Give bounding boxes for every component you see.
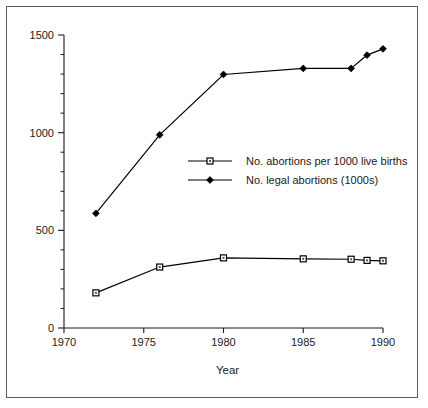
data-point	[364, 257, 370, 263]
data-point	[380, 45, 387, 52]
series-2	[93, 45, 387, 216]
x-tick-label: 1990	[371, 336, 395, 348]
series-1	[93, 255, 386, 296]
marker-square-inner	[350, 258, 352, 260]
data-point	[93, 290, 99, 296]
series-line	[96, 49, 383, 213]
legend: No. abortions per 1000 live birthsNo. le…	[188, 155, 408, 186]
data-point	[300, 256, 306, 262]
chart-figure: 05001000150019701975198019851990YearNo. …	[0, 0, 428, 408]
data-point	[380, 258, 386, 264]
legend-item: No. abortions per 1000 live births	[188, 155, 408, 167]
marker-square-inner	[159, 266, 161, 268]
marker-square-inner	[95, 292, 97, 294]
marker-square-inner	[223, 257, 225, 259]
x-axis-title: Year	[216, 364, 239, 376]
x-tick-label: 1980	[211, 336, 235, 348]
marker-square-inner	[302, 258, 304, 260]
x-tick-label: 1985	[291, 336, 315, 348]
legend-swatch-marker	[207, 177, 214, 184]
y-tick-label: 1000	[30, 127, 54, 139]
data-point	[300, 65, 307, 72]
legend-item-label: No. abortions per 1000 live births	[246, 155, 408, 167]
legend-item: No. legal abortions (1000s)	[188, 174, 378, 186]
marker-square-inner	[382, 260, 384, 262]
data-point	[348, 256, 354, 262]
x-tick-label: 1970	[52, 336, 76, 348]
x-axis-ticks: 19701975198019851990	[52, 328, 395, 348]
data-point	[221, 255, 227, 261]
legend-item-label: No. legal abortions (1000s)	[246, 174, 378, 186]
line-chart: 05001000150019701975198019851990YearNo. …	[0, 0, 428, 408]
x-tick-label: 1975	[132, 336, 156, 348]
data-point	[157, 264, 163, 270]
y-tick-label: 500	[36, 224, 54, 236]
y-axis-ticks: 050010001500	[30, 29, 64, 334]
marker-square-inner	[209, 160, 211, 162]
legend-swatch-marker	[207, 158, 213, 164]
marker-square-inner	[366, 259, 368, 261]
series-line	[96, 258, 383, 293]
y-tick-label: 1500	[30, 29, 54, 41]
y-tick-label: 0	[48, 322, 54, 334]
